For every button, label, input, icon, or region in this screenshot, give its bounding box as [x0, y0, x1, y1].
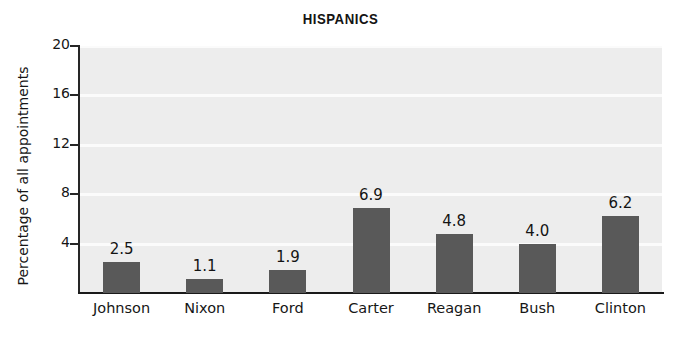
bar	[519, 244, 556, 293]
bar-value-label: 6.2	[580, 194, 660, 212]
bar	[186, 279, 223, 293]
bars-layer: 2.5Johnson1.1Nixon1.9Ford6.9Carter4.8Rea…	[0, 0, 681, 341]
bar-value-label: 1.9	[248, 248, 328, 266]
x-axis-category-label: Clinton	[560, 300, 680, 316]
bar-value-label: 4.0	[497, 222, 577, 240]
y-axis-tick	[70, 45, 79, 47]
bar	[353, 208, 390, 293]
y-axis-tick	[70, 144, 79, 146]
bar	[269, 270, 306, 293]
bar-value-label: 6.9	[331, 186, 411, 204]
bar	[103, 262, 140, 293]
y-axis-tick	[70, 193, 79, 195]
bar	[602, 216, 639, 293]
bar-value-label: 1.1	[165, 257, 245, 275]
bar-value-label: 2.5	[82, 240, 162, 258]
bar-value-label: 4.8	[414, 212, 494, 230]
bar	[436, 234, 473, 293]
y-axis-tick	[70, 243, 79, 245]
bar-chart: HISPANICS Percentage of all appointments…	[0, 0, 681, 341]
y-axis-tick	[70, 94, 79, 96]
